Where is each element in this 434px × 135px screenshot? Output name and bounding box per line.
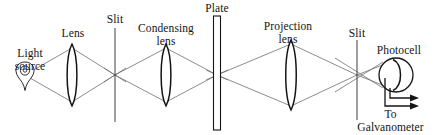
biconvex-lens-icon xyxy=(67,44,77,106)
optical-diagram-figure: Light source Lens Slit Condensing lens P… xyxy=(0,0,434,135)
arrow-right-icon xyxy=(410,95,419,102)
label-lens: Lens xyxy=(46,27,100,40)
biconvex-lens-icon xyxy=(161,44,171,106)
label-light-source: Light source xyxy=(2,47,58,72)
ray-bundle-slit2-to-photocell xyxy=(335,58,385,92)
biconvex-lens-icon xyxy=(286,40,297,110)
photocell-icon xyxy=(379,58,413,92)
label-plate: Plate xyxy=(192,2,242,15)
plate-icon xyxy=(214,16,221,130)
label-photocell: Photocell xyxy=(366,44,432,57)
label-condensing-lens: Condensing lens xyxy=(128,22,204,47)
label-galvanometer: To Galvanometer xyxy=(347,108,434,133)
label-projection-lens: Projection lens xyxy=(249,20,327,45)
label-slit-2: Slit xyxy=(333,27,381,40)
